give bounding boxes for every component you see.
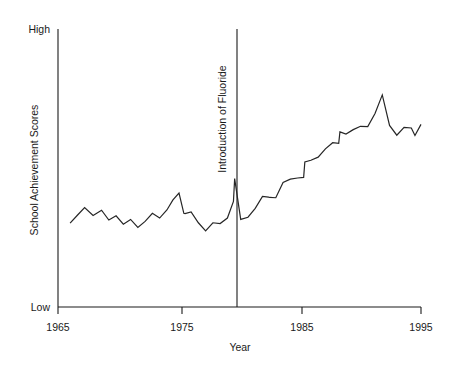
- y-axis-high-label: High: [28, 23, 50, 35]
- y-axis-low-label: Low: [31, 301, 51, 313]
- chart-container: High Low 1965 1975 1985 1995 School Achi…: [0, 0, 457, 365]
- x-axis-title: Year: [229, 341, 251, 353]
- data-series-line: [70, 95, 421, 231]
- fluoride-event-label: Introduction of Fluoride: [216, 65, 228, 173]
- x-tick-label-1965: 1965: [46, 321, 70, 333]
- x-tick-label-1975: 1975: [170, 321, 194, 333]
- y-axis-title: School Achievement Scores: [28, 105, 40, 236]
- x-tick-label-1995: 1995: [409, 321, 433, 333]
- line-chart: High Low 1965 1975 1985 1995 School Achi…: [0, 0, 457, 365]
- x-tick-label-1985: 1985: [290, 321, 314, 333]
